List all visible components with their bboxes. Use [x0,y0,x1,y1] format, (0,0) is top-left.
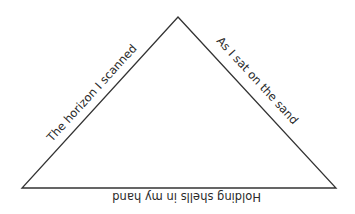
right-side-label: As I sat on the sand [214,34,302,127]
left-side-label: The horizon I scanned [43,41,139,145]
triangle-outline [22,17,336,188]
triangle-diagram: The horizon I scanned As I sat on the sa… [0,0,355,214]
bottom-side-label: Holding shells in my hand [112,190,261,204]
